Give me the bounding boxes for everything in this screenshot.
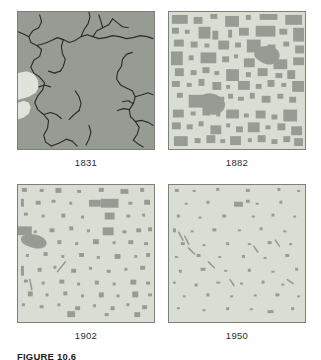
forest-patch-1950-46 [262, 281, 265, 284]
forest-patch-1902-74 [75, 306, 80, 310]
forest-patch-1882-1 [194, 17, 203, 24]
forest-patch-1902-69 [132, 291, 138, 297]
map-panel-grid: 1831 1882 [0, 0, 321, 348]
forest-patch-1950-23 [283, 230, 286, 232]
forest-patch-1902-14 [144, 200, 150, 205]
forest-patch-1882-14 [279, 29, 287, 35]
forest-patch-1902-48 [38, 268, 42, 272]
forest-patch-1882-13 [256, 26, 276, 37]
forest-patch-1950-49 [206, 293, 209, 296]
forest-patch-1882-70 [283, 110, 297, 122]
map-image-1831 [17, 11, 155, 150]
forest-patch-1882-35 [191, 70, 197, 75]
forest-patch-1950-5 [297, 190, 300, 192]
forest-patch-1882-73 [199, 121, 204, 126]
forest-patch-1950-21 [238, 229, 241, 231]
forest-patch-1882-38 [226, 69, 239, 81]
forest-patch-1882-88 [271, 139, 277, 144]
forest-patch-1902-54 [140, 266, 145, 270]
forest-patch-1882-44 [187, 83, 192, 87]
forest-patch-1902-78 [142, 305, 147, 309]
forest-patch-1950-11 [279, 201, 282, 204]
forest-patch-1902-56 [42, 282, 45, 285]
forest-patch-1950-40 [271, 271, 274, 273]
forest-patch-1902-44 [115, 254, 121, 259]
forest-patch-1950-9 [246, 200, 250, 203]
forest-patch-1882-15 [293, 28, 304, 42]
forest-patch-1902-52 [107, 270, 111, 273]
forest-patch-1950-33 [242, 255, 245, 258]
map-image-1950 [168, 184, 306, 323]
forest-patch-1882-80 [291, 126, 302, 135]
forest-patch-1950-59 [291, 307, 294, 310]
forest-patch-1902-11 [89, 200, 101, 207]
forest-patch-1902-28 [122, 230, 126, 233]
forest-patch-1902-45 [134, 255, 137, 258]
forest-patch-1950-24 [181, 242, 185, 245]
forest-patch-1902-63 [28, 291, 33, 296]
forest-patch-1950-32 [218, 256, 221, 258]
forest-patch-1882-79 [277, 123, 285, 130]
forest-patch-1902-62 [146, 282, 150, 285]
forest-patch-1950-16 [271, 214, 274, 217]
forest-patch-1882-23 [283, 42, 289, 47]
forest-patch-1882-57 [238, 97, 244, 101]
forest-patch-1950-4 [277, 188, 280, 191]
forest-patch-1902-21 [142, 214, 145, 217]
forest-patch-1902-0 [22, 188, 27, 192]
forest-patch-1882-47 [226, 85, 230, 89]
forest-patch-1882-11 [228, 30, 232, 38]
forest-patch-1902-50 [71, 269, 76, 273]
forest-patch-1882-56 [228, 94, 233, 99]
forest-patch-1902-57 [59, 280, 64, 284]
forest-patch-1950-54 [177, 307, 180, 309]
forest-patch-1902-1 [40, 189, 44, 192]
cleared-background-1902 [18, 185, 154, 322]
forest-patch-1902-76 [111, 306, 115, 310]
map-svg-1902 [18, 185, 154, 322]
forest-patch-1950-3 [246, 189, 250, 192]
forest-patch-1950-28 [268, 241, 272, 244]
forest-patch-1950-0 [175, 189, 179, 192]
forest-patch-1902-10 [69, 202, 72, 205]
forest-patch-1882-58 [250, 93, 255, 99]
forest-patch-1882-7 [172, 28, 179, 34]
forest-patch-1882-76 [236, 126, 243, 132]
forest-patch-1902-42 [79, 253, 84, 257]
forest-patch-1882-30 [244, 58, 255, 67]
forest-patch-1950-26 [226, 242, 229, 245]
forest-patch-1902-5 [120, 189, 128, 194]
forest-patch-1902-77 [126, 303, 129, 306]
forest-patch-1882-36 [203, 67, 210, 73]
forest-patch-1950-36 [179, 270, 182, 273]
forest-patch-1950-44 [216, 282, 220, 284]
forest-patch-1902-3 [77, 190, 81, 193]
forest-patch-1950-10 [256, 203, 259, 205]
map-image-1882 [168, 11, 306, 150]
forest-patch-1950-53 [297, 295, 300, 297]
figure-caption: FIGURE 10.6 [17, 351, 307, 360]
forest-patch-1882-67 [244, 114, 249, 118]
forest-patch-1902-58 [77, 283, 80, 286]
map-panel-1902: 1902 [17, 184, 161, 341]
forest-patch-1950-47 [281, 284, 284, 286]
forest-patch-1902-18 [81, 216, 84, 219]
forest-patch-1902-64 [46, 293, 49, 296]
forest-patch-1882-77 [248, 122, 260, 132]
forest-patch-1902-61 [130, 280, 136, 285]
forest-patch-1902-34 [75, 242, 78, 245]
forest-patch-1950-22 [260, 227, 263, 230]
forest-patch-1950-15 [252, 216, 255, 218]
forest-patch-1882-62 [173, 110, 184, 118]
forest-patch-1902-38 [144, 242, 148, 245]
forest-patch-1902-23 [34, 230, 37, 233]
forest-patch-1950-34 [264, 257, 267, 259]
forest-patch-1882-90 [294, 138, 303, 146]
forest-patch-1950-55 [203, 309, 206, 311]
forest-patch-1882-33 [293, 57, 304, 65]
forest-patch-1882-46 [212, 82, 221, 90]
forest-patch-1902-24 [50, 228, 55, 232]
forest-patch-1882-89 [283, 136, 290, 142]
forest-background-1831 [18, 12, 154, 149]
forest-patch-1882-74 [210, 125, 221, 134]
